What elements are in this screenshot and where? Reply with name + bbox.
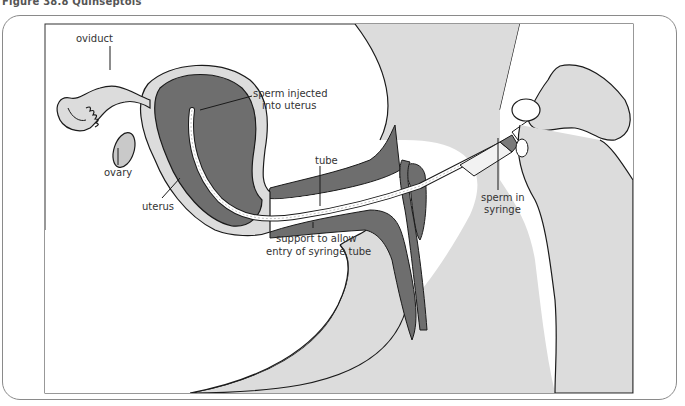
label-support-2: entry of syringe tube (266, 246, 371, 257)
insemination-diagram: oviduct ovary uterus sperm injected into… (0, 0, 685, 406)
finger-nail (516, 139, 528, 157)
label-tube: tube (315, 155, 338, 166)
label-uterus: uterus (142, 201, 174, 212)
label-sperm-injected-2: into uterus (262, 100, 316, 111)
thumb-nail (512, 99, 540, 121)
label-oviduct: oviduct (76, 33, 113, 44)
label-ovary: ovary (104, 167, 132, 178)
label-sperm-injected-1: sperm injected (253, 88, 328, 99)
label-sperm-syringe-1: sperm in (481, 192, 525, 203)
label-sperm-syringe-2: syringe (484, 204, 521, 215)
label-support-1: support to allow (276, 233, 357, 244)
